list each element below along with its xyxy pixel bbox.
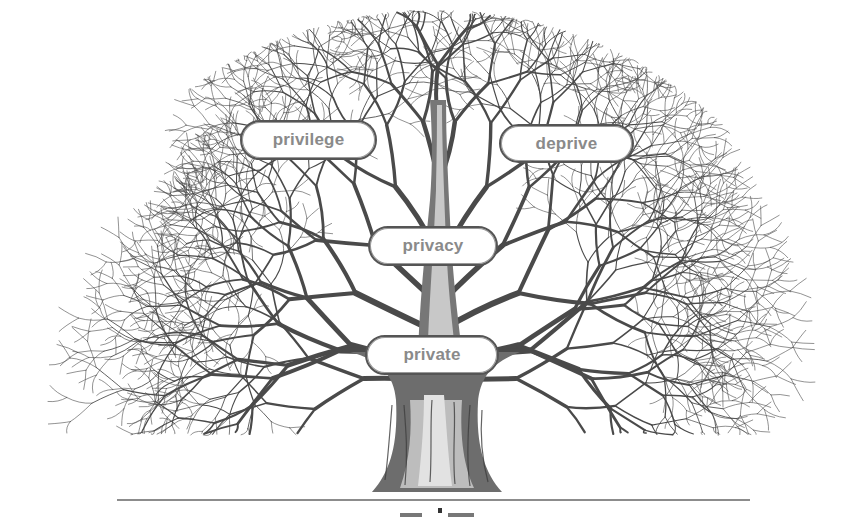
word-label-privilege: privilege (273, 130, 345, 150)
ground-line (117, 499, 750, 501)
word-node-privacy: privacy (368, 226, 498, 266)
root-word-fragment (438, 508, 442, 513)
word-node-privilege: privilege (240, 120, 377, 160)
word-label-privacy: privacy (403, 236, 464, 256)
word-label-private: private (403, 345, 460, 365)
word-node-private: private (365, 335, 499, 375)
root-word-fragment-right (448, 513, 474, 517)
root-word-fragment-left (400, 513, 422, 517)
word-label-deprive: deprive (536, 134, 598, 154)
word-node-deprive: deprive (499, 124, 634, 163)
tree-trunk (350, 100, 520, 492)
